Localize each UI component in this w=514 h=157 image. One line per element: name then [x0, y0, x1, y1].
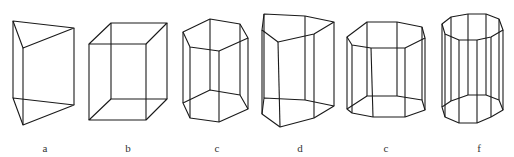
bottom-face: [262, 98, 334, 127]
bottom-face: [347, 96, 425, 117]
top-face: [262, 14, 334, 42]
vertical-edge: [278, 42, 280, 127]
label-shape-c: c: [215, 143, 220, 154]
bottom-face: [13, 98, 74, 125]
bottom-face: [183, 90, 248, 122]
label-shape-b: b: [125, 143, 131, 154]
hexagonal-prism: [183, 19, 248, 122]
prism-figure: a b c d c f: [0, 0, 514, 157]
top-face: [347, 22, 425, 48]
top-face: [13, 21, 74, 48]
label-shape-f: f: [477, 143, 481, 154]
top-face: [183, 19, 248, 51]
pentagonal-prism: [262, 14, 334, 127]
vertical-edge: [371, 48, 373, 117]
prism-diagram-canvas: [0, 0, 514, 157]
decagonal-prism: [442, 14, 503, 123]
label-shape-a: a: [43, 143, 48, 154]
bottom-face: [89, 99, 167, 120]
top-face: [89, 23, 167, 44]
rectangular-prism: [89, 23, 167, 120]
label-shape-e: c: [384, 143, 389, 154]
octagonal-prism: [347, 22, 425, 117]
triangular-prism: [13, 21, 74, 125]
label-shape-d: d: [297, 143, 303, 154]
